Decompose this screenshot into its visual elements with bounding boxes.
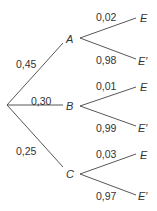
node-b-e: E	[140, 81, 147, 93]
prob-a-e: 0,02	[96, 11, 116, 23]
prob-b-eprime: 0,99	[96, 122, 116, 134]
node-c: C	[66, 168, 74, 180]
node-b-eprime: E′	[138, 122, 147, 134]
node-a: A	[66, 33, 73, 45]
node-a-e: E	[140, 12, 147, 24]
node-a-eprime: E′	[138, 55, 147, 67]
prob-c: 0,25	[16, 145, 36, 157]
prob-c-eprime: 0,97	[96, 190, 116, 202]
prob-c-e: 0,03	[96, 148, 116, 160]
node-b: B	[66, 100, 73, 112]
prob-b-e: 0,01	[96, 80, 116, 92]
node-c-e: E	[140, 149, 147, 161]
probability-tree	[0, 0, 157, 211]
prob-a-eprime: 0,98	[96, 54, 116, 66]
prob-b: 0,30	[31, 95, 51, 107]
node-c-eprime: E′	[138, 190, 147, 202]
edge-root-c	[7, 105, 63, 167]
prob-a: 0,45	[16, 58, 36, 70]
